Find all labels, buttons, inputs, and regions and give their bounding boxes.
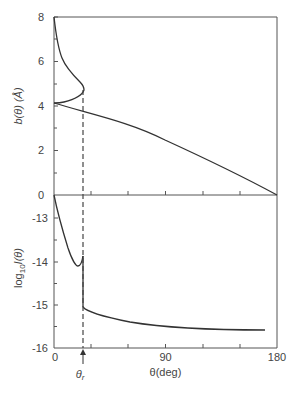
intensity-curve-left: [54, 195, 83, 266]
upper-ytick-4: 4: [38, 100, 44, 112]
x-axis-label: θ(deg): [150, 366, 182, 378]
xtick-0: 0: [52, 351, 58, 363]
upper-panel: 8 6 4 2 0 b(θ) (Å): [12, 11, 277, 348]
theta-r-label-sub: r: [82, 373, 85, 382]
lower-ytick-13: -13: [32, 212, 48, 224]
upper-ytick-0: 0: [38, 189, 44, 201]
upper-ytick-6: 6: [38, 55, 44, 67]
middle-x-ticks: [91, 191, 240, 195]
lower-y-label: log10I(θ): [12, 248, 27, 288]
upper-ytick-2: 2: [38, 144, 44, 156]
xtick-180: 180: [268, 351, 286, 363]
lower-y-ticks: [54, 218, 58, 327]
upper-branch-curve: [54, 17, 84, 103]
upper-y-label-text: b(θ) (Å): [12, 87, 24, 124]
lower-ytick-16: -16: [32, 342, 48, 354]
lower-panel: -13 -14 -15 -16 log10I(θ) 0 90 180 θ(deg…: [12, 195, 286, 378]
lower-branch-curve: [54, 103, 277, 195]
lower-ytick-14: -14: [32, 256, 48, 268]
bottom-x-ticks: [91, 344, 240, 348]
lower-y-label-rest: I(θ): [12, 248, 24, 265]
intensity-curve-right: [83, 307, 265, 330]
lower-y-label-log: log: [12, 273, 24, 288]
upper-ytick-8: 8: [38, 11, 44, 23]
upper-y-label: b(θ) (Å): [12, 87, 24, 124]
lower-ytick-15: -15: [32, 299, 48, 311]
theta-r-label: θr: [76, 368, 85, 382]
chart-canvas: 8 6 4 2 0 b(θ) (Å) -13 -14 -15: [0, 0, 297, 395]
xtick-90: 90: [159, 351, 171, 363]
theta-r-arrow-icon: [80, 349, 86, 364]
